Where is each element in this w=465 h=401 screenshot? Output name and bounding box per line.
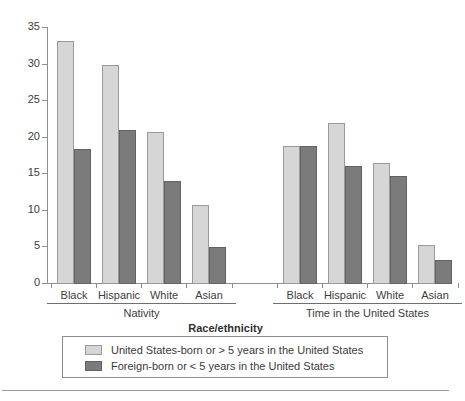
- group-underline: [273, 303, 462, 304]
- x-axis-tick: [367, 283, 368, 288]
- legend-label-dark: Foreign-born or < 5 years in the United …: [111, 360, 334, 372]
- legend-item-dark: Foreign-born or < 5 years in the United …: [85, 359, 334, 373]
- group-label: Nativity: [47, 307, 236, 319]
- plot-area: 05101520253035 BlackHispanicWhiteAsianBl…: [0, 0, 451, 300]
- bars-layer: [0, 0, 451, 284]
- x-axis-tick: [141, 283, 142, 288]
- bar-light: [57, 41, 74, 284]
- group-underline: [47, 303, 236, 304]
- bar-light: [373, 163, 390, 284]
- x-axis-title: Race/ethnicity: [0, 322, 451, 334]
- x-axis-tick: [412, 283, 413, 288]
- bar-dark: [164, 181, 181, 284]
- x-axis-tick: [232, 283, 233, 288]
- bar-dark: [74, 149, 91, 284]
- group-label: Time in the United States: [273, 307, 462, 319]
- x-axis-tick: [186, 283, 187, 288]
- bar-dark: [435, 260, 452, 284]
- bar-light: [192, 205, 209, 284]
- legend-label-light: United States-born or > 5 years in the U…: [111, 344, 363, 356]
- bar-light: [102, 65, 119, 284]
- bar-dark: [345, 166, 362, 284]
- bar-light: [418, 245, 435, 284]
- x-axis-tick: [96, 283, 97, 288]
- x-axis-tick: [277, 283, 278, 288]
- legend-swatch-dark-icon: [85, 361, 102, 371]
- bottom-divider: [2, 390, 449, 391]
- legend-swatch-light-icon: [85, 345, 102, 355]
- bar-dark: [300, 146, 317, 284]
- legend-item-light: United States-born or > 5 years in the U…: [85, 343, 363, 357]
- bar-light: [283, 146, 300, 284]
- bar-light: [147, 132, 164, 284]
- x-axis-tick: [322, 283, 323, 288]
- bar-dark: [209, 247, 226, 284]
- x-axis-category-label: Asian: [179, 289, 239, 301]
- legend: United States-born or > 5 years in the U…: [62, 336, 388, 378]
- x-axis-tick: [458, 283, 459, 288]
- x-axis-tick: [51, 283, 52, 288]
- bar-dark: [119, 130, 136, 284]
- bar-dark: [390, 176, 407, 284]
- x-axis-category-label: Asian: [405, 289, 465, 301]
- bar-light: [328, 123, 345, 284]
